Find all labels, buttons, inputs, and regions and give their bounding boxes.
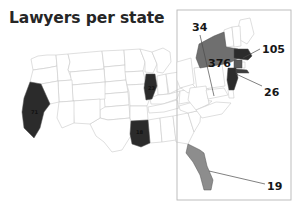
leader-line-nj [236,74,262,86]
inset-state-DE [228,89,234,98]
inset-state-CT-highlight [234,60,242,68]
map-figure: Lawyers per state 34 105 26 19 376 71 23… [0,0,297,211]
state-value-newyork: 376 [208,58,231,69]
state-CO [72,82,105,101]
state-OK [100,105,130,120]
state-FL-highlight [186,144,213,190]
state-value-california: 71 [31,110,38,115]
state-SD [104,65,126,82]
inset-state-MD [206,88,228,99]
callout-label-massachusetts: 105 [262,44,285,55]
leader-line-fl [209,171,265,184]
callout-label-pennsylvania: 34 [192,22,207,33]
state-value-louisiana: 18 [136,130,143,135]
inset-state-OH-partial [177,58,194,88]
state-MS [148,118,162,143]
state-UT [58,80,73,102]
state-NE [104,80,128,94]
state-AR [130,106,148,121]
state-AZ [57,101,74,128]
inset-long-island [236,69,249,73]
callout-label-newjersey: 26 [264,87,279,98]
callout-label-florida: 19 [267,181,282,192]
page-title: Lawyers per state [9,9,165,27]
state-ND [102,50,125,67]
state-KS [104,92,129,107]
state-IA [125,71,146,85]
us-choropleth-map [0,0,297,211]
state-MT [68,51,104,72]
state-value-illinois: 23 [148,86,155,91]
state-NM [73,99,100,124]
state-TX [90,118,132,152]
